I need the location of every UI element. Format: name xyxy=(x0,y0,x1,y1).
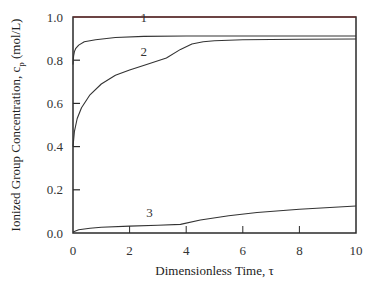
y-tick-label: 0.4 xyxy=(47,139,64,154)
y-tick-label: 0.0 xyxy=(47,226,63,241)
curve-label-1: 1 xyxy=(141,10,148,25)
curve-labels: 123 xyxy=(141,10,153,219)
x-axis-title: Dimensionless Time, τ xyxy=(155,263,273,278)
y-axis-title-unit: (mol/L) xyxy=(8,19,23,63)
x-axis-ticks: 0246810 xyxy=(70,226,363,258)
x-tick-label: 2 xyxy=(126,243,133,258)
curve-label-2: 2 xyxy=(141,44,148,59)
x-tick-label: 0 xyxy=(70,243,77,258)
y-tick-label: 0.2 xyxy=(47,182,63,197)
x-tick-label: 6 xyxy=(240,243,247,258)
y-tick-label: 1.0 xyxy=(47,10,63,25)
y-axis-title: Ionized Group Concentration, cp (mol/L) xyxy=(8,19,26,232)
y-tick-label: 0.6 xyxy=(47,96,64,111)
y-axis-ticks: 0.00.20.40.60.81.0 xyxy=(47,10,80,241)
y-axis-title-main: Ionized Group Concentration, c xyxy=(8,67,23,232)
data-series xyxy=(73,36,356,232)
x-tick-label: 4 xyxy=(183,243,190,258)
x-tick-label: 10 xyxy=(350,243,363,258)
curve-label-3: 3 xyxy=(146,205,153,220)
y-tick-label: 0.8 xyxy=(47,53,63,68)
plot-frame xyxy=(73,17,356,233)
line-chart: 0.00.20.40.60.81.0 0246810 123 Dimension… xyxy=(0,0,373,288)
x-tick-label: 8 xyxy=(296,243,303,258)
curve-3 xyxy=(73,206,356,232)
curve-2 xyxy=(73,39,356,147)
